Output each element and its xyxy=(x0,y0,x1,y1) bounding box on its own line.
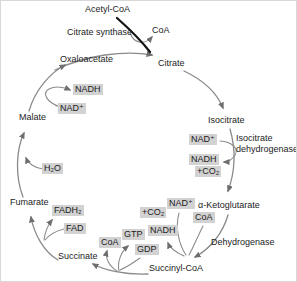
label-nad-isocitrate: NAD⁺ xyxy=(189,134,217,145)
label-coa-succinate: CoA xyxy=(99,237,121,248)
label-nadh-isocitrate: NADH xyxy=(189,154,219,165)
label-citrate-synthase: Citrate synthase xyxy=(67,27,132,38)
label-nadh-succinyl: NADH xyxy=(148,225,178,236)
arrow-coa-in-ketoglutarate xyxy=(189,226,203,255)
label-succinate: Succinate xyxy=(58,251,98,262)
arrow-gdp-in xyxy=(120,258,140,270)
label-isocitrate-dehydrogenase-line2: dehydrogenase xyxy=(236,144,297,155)
label-co2-isocitrate: +CO₂ xyxy=(195,166,221,177)
label-gtp: GTP xyxy=(122,229,145,240)
label-fadh2: FADH₂ xyxy=(52,205,84,216)
label-succinyl-coa: Succinyl-CoA xyxy=(149,263,203,274)
arrow-fad-in xyxy=(45,229,64,240)
arrow-succinylcoa-to-succinate xyxy=(93,264,148,274)
label-oxaloacetate: Oxaloacetate xyxy=(60,54,113,65)
label-fad: FAD xyxy=(64,223,86,234)
label-h2o: H₂O xyxy=(42,163,63,174)
label-nadh-malate: NADH xyxy=(73,84,103,95)
label-co2-succinyl: +CO₂ xyxy=(140,207,166,218)
arrow-nadh-out-isocitrate xyxy=(224,155,235,162)
label-nad-malate: NAD⁺ xyxy=(58,103,86,114)
label-alpha-ketoglutarate: α-Ketoglutarate xyxy=(198,200,260,211)
arrow-citrate-to-isocitrate xyxy=(184,71,223,108)
label-citrate: Citrate xyxy=(158,58,185,69)
arrow-h2o-in xyxy=(26,158,43,169)
label-coa-released: CoA xyxy=(152,25,170,36)
label-isocitrate-dehydrogenase: Isocitrate dehydrogenase xyxy=(236,133,297,155)
label-acetyl-coa: Acetyl-CoA xyxy=(85,4,130,15)
label-nad-succinyl: NAD⁺ xyxy=(167,198,195,209)
arrow-coa-out-succinate xyxy=(106,251,117,271)
label-dehydrogenase: Dehydrogenase xyxy=(211,237,275,248)
label-isocitrate-dehydrogenase-line1: Isocitrate xyxy=(236,133,297,144)
arrow-fumarate-to-malate xyxy=(17,133,24,197)
arrow-nadh-out-succinyl xyxy=(168,243,184,256)
citric-acid-cycle-diagram: Acetyl-CoA CoA Oxaloacetate Citrate Isoc… xyxy=(0,0,297,282)
arrow-nad-in-succinyl xyxy=(177,213,186,255)
label-fumarate: Fumarate xyxy=(10,197,49,208)
label-gdp: GDP xyxy=(135,244,159,255)
label-malate: Malate xyxy=(19,112,46,123)
label-coa-ketoglutarate: CoA xyxy=(193,212,215,223)
label-isocitrate: Isocitrate xyxy=(208,115,245,126)
